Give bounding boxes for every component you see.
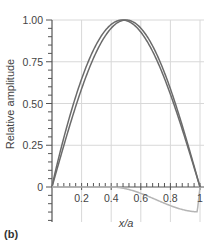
x-axis-title: x/a: [118, 217, 134, 229]
y-tick-label: 0: [37, 181, 43, 193]
panel-label: (b): [4, 228, 18, 240]
y-tick-label: 0.25: [23, 139, 44, 151]
y-tick-label: 1.00: [23, 14, 44, 26]
x-tick-label: 0.2: [74, 192, 89, 204]
x-tick-label: 0.6: [133, 192, 148, 204]
y-axis-title: Relative amplitude: [4, 59, 16, 150]
y-tick-label: 0.50: [23, 98, 44, 110]
data-series: [52, 20, 200, 212]
x-tick-label: 1: [197, 192, 203, 204]
chart: 00.250.500.751.000.20.40.60.81 x/a Relat…: [0, 0, 213, 247]
x-tick-label: 0.4: [104, 192, 119, 204]
x-tick-label: 0.8: [163, 192, 178, 204]
y-tick-label: 0.75: [23, 56, 44, 68]
